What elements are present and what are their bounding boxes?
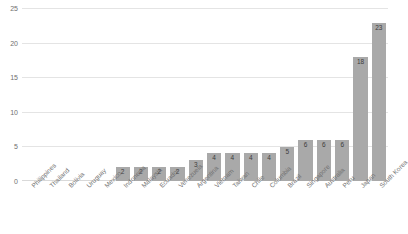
x-axis-labels: PhilippinesThailandBoliviaUruguayMexicoI…: [22, 182, 388, 234]
x-label-slot: Chile: [242, 182, 260, 234]
bar-value-label: 6: [304, 140, 308, 149]
y-tick-label: 5: [0, 143, 18, 150]
bar-value-label: 6: [322, 140, 326, 149]
bar-slot: [77, 8, 95, 181]
y-tick-label: 20: [0, 40, 18, 47]
bar-slot: 4: [260, 8, 278, 181]
bar-value-label: 23: [375, 23, 382, 32]
bar-slot: 18: [351, 8, 369, 181]
bar[interactable]: 23: [372, 23, 386, 181]
bar-slot: [59, 8, 77, 181]
bar-slot: 2: [132, 8, 150, 181]
bar-slot: 6: [296, 8, 314, 181]
bar-value-label: 4: [249, 153, 253, 162]
bar-slot: 2: [150, 8, 168, 181]
bar-value-label: 5: [285, 147, 289, 156]
x-label-slot: Ecuador: [150, 182, 168, 234]
x-label-slot: Venezuela: [168, 182, 186, 234]
x-label-slot: Singapore: [296, 182, 314, 234]
x-label-slot: Indonesia: [113, 182, 131, 234]
bar-slot: 2: [168, 8, 186, 181]
bar-slot: 6: [333, 8, 351, 181]
x-label-slot: Bolivia: [59, 182, 77, 234]
y-tick-label: 25: [0, 5, 18, 12]
x-label-slot: Vietnam: [205, 182, 223, 234]
bar-slot: 4: [242, 8, 260, 181]
x-label-slot: Taiwan: [223, 182, 241, 234]
x-label-slot: Uruguay: [77, 182, 95, 234]
bar-slot: 6: [315, 8, 333, 181]
bar-series: 22223444456661823: [22, 8, 388, 181]
x-label-slot: Japan: [351, 182, 369, 234]
x-label-slot: Australia: [315, 182, 333, 234]
bar-slot: [22, 8, 40, 181]
bar-slot: 4: [223, 8, 241, 181]
bar-value-label: 4: [212, 153, 216, 162]
bar-value-label: 18: [357, 57, 364, 66]
bar-value-label: 6: [340, 140, 344, 149]
y-tick-label: 15: [0, 74, 18, 81]
x-label-slot: Philippines: [22, 182, 40, 234]
plot-area: 22223444456661823: [22, 8, 388, 181]
x-label-slot: South Korea: [370, 182, 388, 234]
bar-slot: 5: [278, 8, 296, 181]
x-label-slot: Malaysia: [132, 182, 150, 234]
x-label-slot: Mexico: [95, 182, 113, 234]
bar-slot: [95, 8, 113, 181]
x-label-slot: Peru: [333, 182, 351, 234]
x-label-slot: Brazil: [278, 182, 296, 234]
bar-slot: 3: [187, 8, 205, 181]
bar-slot: 23: [370, 8, 388, 181]
bar-slot: [40, 8, 58, 181]
bar[interactable]: 18: [353, 57, 367, 181]
bar-value-label: 4: [267, 153, 271, 162]
x-label-slot: Columbia: [260, 182, 278, 234]
bar-slot: 4: [205, 8, 223, 181]
y-tick-label: 10: [0, 109, 18, 116]
x-label-slot: Thailand: [40, 182, 58, 234]
bar-slot: 2: [113, 8, 131, 181]
x-label-slot: Argentina: [187, 182, 205, 234]
y-tick-label: 0: [0, 178, 18, 185]
bar-value-label: 4: [231, 153, 235, 162]
